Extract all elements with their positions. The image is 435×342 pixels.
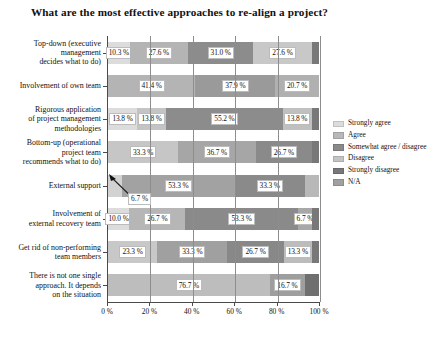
bar-segment: 76.7 % — [108, 274, 270, 296]
legend-label: Strongly agree — [348, 119, 391, 127]
category-label: Involvement ofexternal recovery team — [3, 209, 107, 228]
bar-segment — [312, 208, 319, 230]
bar-segment: 26.7 % — [129, 208, 185, 230]
legend-label: Strongly disagree — [348, 166, 399, 174]
bar-segment: 13.3 % — [284, 241, 312, 263]
callout-value-label: 6.7 % — [128, 193, 151, 205]
category-label: There is not one singleapproach. It depe… — [3, 271, 107, 299]
category-label-line: There is not one single — [3, 271, 101, 280]
bar-row: 33.3 %36.7 %26.7 % — [108, 141, 319, 163]
bar-segment: 53.3 % — [185, 208, 297, 230]
x-axis-tick-label: 100 % — [309, 307, 328, 316]
gridline — [278, 36, 279, 302]
bar-segment: 55.2 % — [166, 108, 282, 130]
legend-swatch — [333, 156, 344, 163]
bar-segment: 33.3 % — [108, 141, 178, 163]
bar-segment — [312, 141, 319, 163]
category-label: Rigorous applicationof project managemen… — [3, 105, 107, 133]
bar-segment: 26.7 % — [256, 141, 312, 163]
legend-swatch — [333, 168, 344, 175]
gridline — [150, 36, 151, 302]
x-axis-tick-label: 0 % — [101, 307, 113, 316]
bar-segment-value-label: 26.7 % — [242, 246, 268, 258]
legend-item[interactable]: N/A — [333, 178, 433, 186]
x-axis-tick — [192, 302, 193, 306]
legend-item[interactable]: Strongly disagree — [333, 166, 433, 174]
legend-item[interactable]: Agree — [333, 131, 433, 139]
chart-figure: What are the most effective approaches t… — [0, 0, 435, 342]
bar-segment — [312, 42, 319, 64]
x-axis-tick — [319, 302, 320, 306]
category-label-line: project team — [3, 148, 101, 157]
category-label-line: External support — [3, 181, 101, 190]
bar-segment-value-label: 10.0 % — [105, 213, 131, 225]
legend-swatch — [333, 179, 344, 186]
bar-row: 41.4 %37.9 %20.7 % — [108, 75, 319, 97]
bar-segment-value-label: 13.8 % — [109, 113, 135, 125]
bar-segment — [312, 108, 319, 130]
bar-segment: 13.8 % — [108, 108, 137, 130]
legend-item[interactable]: Disagree — [333, 154, 433, 162]
category-label-line: on the situation — [3, 290, 101, 299]
bar-row: 23.3 %33.3 %26.7 %13.3 % — [108, 241, 319, 263]
x-axis-tick — [277, 302, 278, 306]
bar-segment: 13.8 % — [283, 108, 312, 130]
category-label-line: Involvement of — [3, 209, 101, 218]
category-label-line: of project management — [3, 114, 101, 123]
bar-segment — [312, 241, 319, 263]
bar-rows: 10.3 %27.6 %31.0 %27.6 %41.4 %37.9 %20.7… — [108, 36, 319, 302]
legend-label: N/A — [348, 178, 361, 186]
category-label-line: decides what to do) — [3, 57, 101, 66]
category-label-line: Rigorous application — [3, 105, 101, 114]
legend-item[interactable]: Strongly agree — [333, 119, 433, 127]
bar-segment: 41.4 % — [108, 75, 195, 97]
category-axis: Top-down (executivemanagementdecides wha… — [0, 36, 107, 302]
bar-segment — [305, 274, 319, 296]
bar-segment: 10.0 % — [108, 208, 129, 230]
bar-segment: 6.7 % — [298, 208, 312, 230]
bar-segment: 13.8 % — [137, 108, 166, 130]
category-label: External support — [3, 181, 107, 190]
category-label-line: management — [3, 48, 101, 57]
bar-segment: 36.7 % — [178, 141, 255, 163]
category-label: Involvement of own team — [3, 81, 107, 90]
bar-segment-value-label: 31.0 % — [208, 47, 234, 59]
bar-segment-value-label: 13.8 % — [138, 113, 164, 125]
bar-row: 10.3 %27.6 %31.0 %27.6 % — [108, 42, 319, 64]
category-label-line: team members — [3, 252, 101, 261]
category-label-line: recommends what to do) — [3, 157, 101, 166]
bar-segment-value-label: 76.7 % — [176, 279, 202, 291]
bar-segment — [108, 175, 122, 197]
category-label-line: Top-down (executive — [3, 39, 101, 48]
bar-row: 13.8 %13.8 %55.2 %13.8 % — [108, 108, 319, 130]
category-label: Top-down (executivemanagementdecides wha… — [3, 39, 107, 67]
bar-segment: 27.6 % — [130, 42, 188, 64]
bar-segment-value-label: 41.4 % — [139, 80, 165, 92]
bar-segment-value-label: 23.3 % — [119, 246, 145, 258]
bar-segment-value-label: 27.6 % — [269, 47, 295, 59]
bar-segment-value-label: 26.7 % — [144, 213, 170, 225]
legend-swatch — [333, 121, 344, 128]
bar-segment-value-label: 10.3 % — [106, 47, 132, 59]
legend-label: Disagree — [348, 154, 374, 162]
bar-segment-value-label: 53.3 % — [228, 213, 254, 225]
legend-item[interactable]: Somewhat agree / disagree — [333, 143, 433, 151]
bar-segment — [305, 175, 319, 197]
legend-swatch — [333, 132, 344, 139]
bar-segment: 31.0 % — [188, 42, 253, 64]
category-label: Bottom-up (operationalproject teamrecomm… — [3, 138, 107, 166]
bar-segment: 20.7 % — [275, 75, 319, 97]
bar-segment-value-label: 33.3 % — [257, 180, 283, 192]
x-axis-tick — [234, 302, 235, 306]
legend-label: Somewhat agree / disagree — [348, 143, 426, 151]
bar-segment-value-label: 13.3 % — [285, 246, 311, 258]
bar-segment-value-label: 13.8 % — [284, 113, 310, 125]
x-axis-tick-label: 40 % — [184, 307, 199, 316]
category-label-line: Bottom-up (operational — [3, 138, 101, 147]
gridline — [235, 36, 236, 302]
x-axis-tick-label: 60 % — [226, 307, 241, 316]
category-label: Get rid of non-performingteam members — [3, 243, 107, 262]
legend-label: Agree — [348, 131, 366, 139]
bar-row: 10.0 %26.7 %53.3 %6.7 % — [108, 208, 319, 230]
bar-segment-value-label: 20.7 % — [284, 80, 310, 92]
